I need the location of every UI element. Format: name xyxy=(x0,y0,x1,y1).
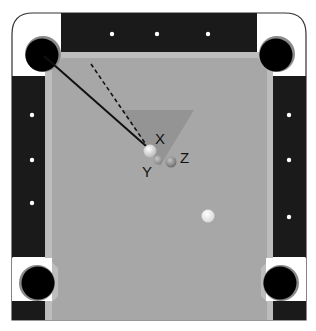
ball-z xyxy=(166,157,177,168)
diamond-marker xyxy=(287,113,291,117)
diamond-marker xyxy=(287,215,291,219)
diamond-marker xyxy=(30,158,34,162)
bottom-right-pocket xyxy=(263,258,306,301)
diamond-marker xyxy=(206,32,210,36)
diamond-marker xyxy=(30,113,34,117)
diamond-marker xyxy=(30,201,34,205)
label-z: Z xyxy=(180,149,189,166)
top-right-pocket xyxy=(259,36,295,72)
left-rail-bottom-stub xyxy=(12,301,45,320)
felt xyxy=(52,58,267,320)
top-rail xyxy=(61,13,257,52)
diamond-marker xyxy=(110,32,114,36)
ball-y xyxy=(154,156,163,165)
right-rail-bottom-stub xyxy=(273,301,306,320)
left-rail xyxy=(12,76,45,257)
right-rail xyxy=(273,76,306,257)
cue-ball xyxy=(202,210,215,223)
diamond-marker xyxy=(155,32,159,36)
label-x: X xyxy=(155,130,165,147)
billiards-table-diagram: X Y Z xyxy=(0,0,316,331)
diamond-marker xyxy=(287,158,291,162)
label-y: Y xyxy=(142,163,152,180)
bottom-left-pocket xyxy=(12,258,55,301)
